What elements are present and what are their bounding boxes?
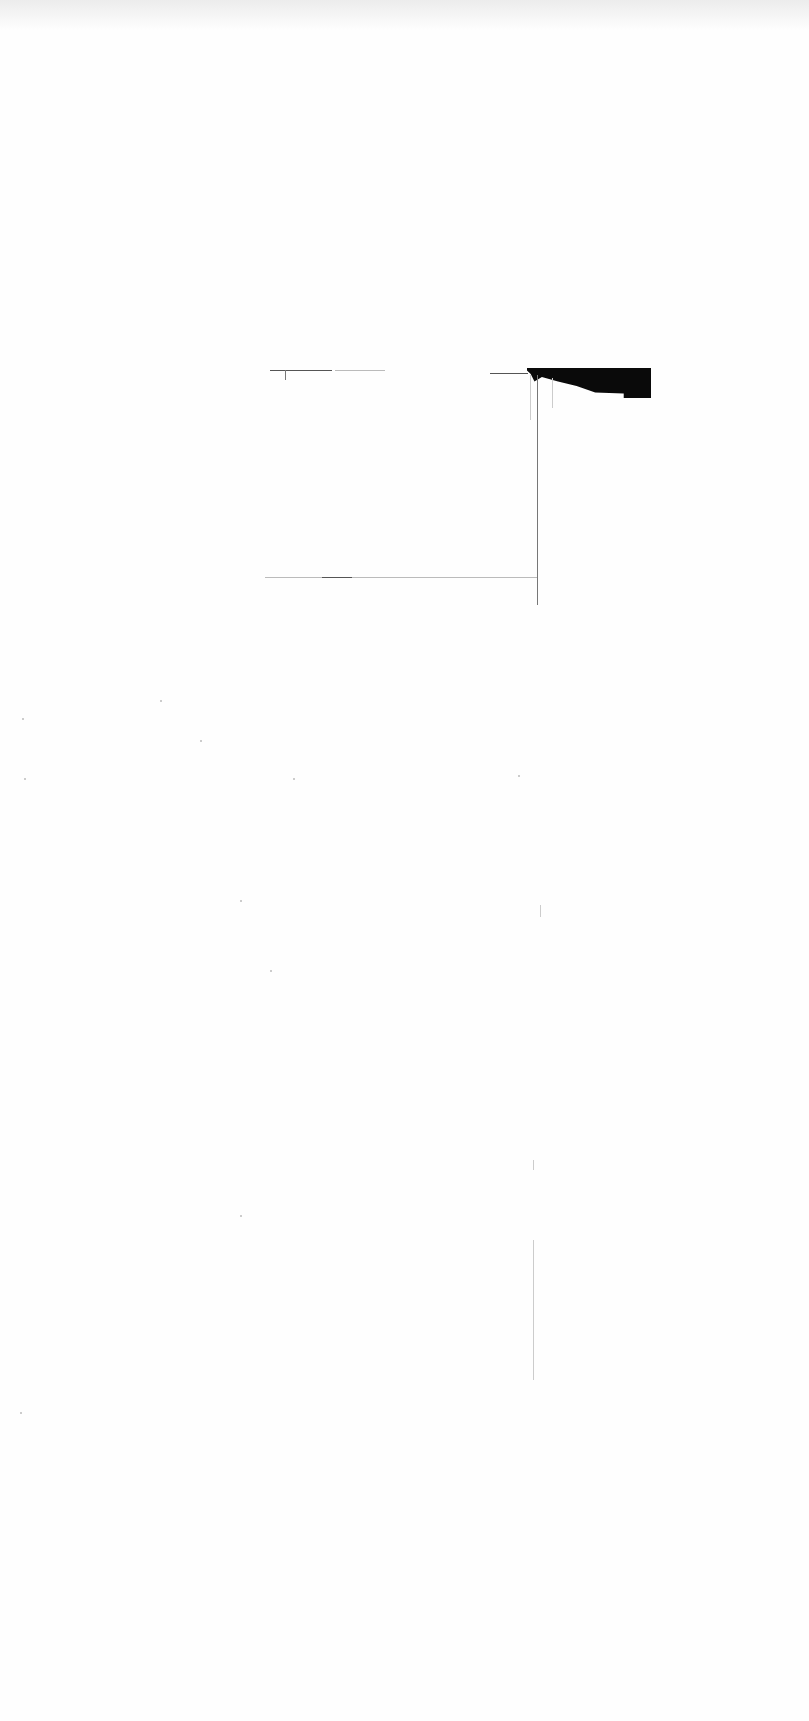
speck <box>22 718 24 720</box>
speck <box>518 775 520 777</box>
speck <box>270 970 272 972</box>
filled-black-block <box>527 368 651 398</box>
vertical-line <box>537 375 538 605</box>
lower-vertical-trace <box>533 1240 534 1380</box>
mid-vertical-trace <box>540 905 541 917</box>
header-rule-dashes <box>335 370 385 371</box>
header-rule-left <box>270 370 332 371</box>
speck <box>200 740 202 742</box>
footer-rule <box>265 577 537 578</box>
header-rule-right <box>490 373 528 374</box>
speck <box>160 700 162 702</box>
footer-rule-mark <box>322 577 352 578</box>
speck <box>293 778 295 780</box>
speck <box>240 900 242 902</box>
vertical-line-drip <box>530 375 531 420</box>
header-tick <box>285 370 286 380</box>
mid-vertical-trace-2 <box>533 1160 534 1170</box>
scan-edge-shading <box>0 0 809 30</box>
speck <box>240 1215 242 1217</box>
speck <box>24 778 26 780</box>
vertical-line-drip-2 <box>552 378 553 408</box>
speck <box>20 1412 22 1414</box>
scanned-page <box>0 0 809 1721</box>
